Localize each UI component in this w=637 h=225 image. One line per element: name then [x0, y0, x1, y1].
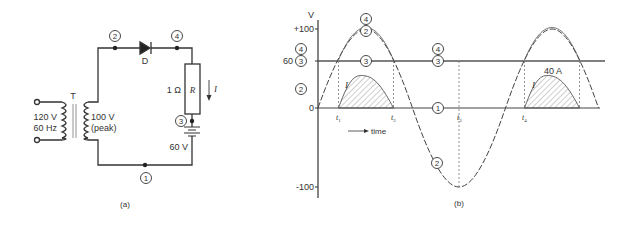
diode-symbol [140, 42, 150, 54]
time-arrow-label: time [371, 127, 387, 136]
diode-label: D [142, 56, 149, 66]
node-4-label: 4 [175, 32, 180, 41]
node-1-dot [143, 163, 147, 167]
t2-label: t2 [391, 113, 396, 123]
wire-top-right [151, 48, 192, 64]
node-2-dot [113, 46, 117, 50]
input-terminal-top [35, 100, 40, 105]
t3-label: t3 [457, 113, 462, 123]
y-tick-100: +100 [294, 24, 314, 34]
battery-label: 60 V [169, 142, 188, 152]
input-terminal-bottom [35, 138, 40, 143]
waveform-graph [315, 20, 605, 198]
figure-canvas: 2 4 3 1 T 120 V 60 Hz 100 V (peak) D 1 Ω… [0, 0, 637, 225]
marker-peak-4-label: 4 [364, 15, 369, 24]
circuit-caption: (a) [120, 200, 130, 209]
node-3-label: 3 [179, 117, 184, 126]
marker-right-4-label: 4 [436, 45, 441, 54]
y-tick-neg100: -100 [296, 182, 314, 192]
marker-peak-2-label: 2 [364, 27, 369, 36]
marker-trough-2-label: 2 [435, 159, 440, 168]
time-arrowhead [364, 129, 369, 133]
marker-mid-3-label: 3 [364, 57, 369, 66]
node-3-dot [190, 119, 194, 123]
node-4-trace-2 [525, 28, 580, 61]
transformer-label: T [70, 91, 76, 101]
marker-left-3-label: 3 [299, 57, 304, 66]
y-tick-60: 60 [283, 56, 293, 66]
resistor-value-label: 1 Ω [167, 85, 182, 95]
secondary-coil [84, 102, 88, 140]
marker-right-3-label: 3 [436, 57, 441, 66]
marker-zero-1-label: 1 [436, 104, 441, 113]
y-tick-0: 0 [309, 103, 314, 113]
t4-label: t4 [522, 113, 527, 123]
current-peak-label: 40 A [544, 66, 562, 76]
primary-voltage-label: 120 V [33, 112, 57, 122]
battery-symbol [184, 127, 200, 136]
node-1-label: 1 [144, 174, 149, 183]
transformer-core [73, 104, 76, 138]
circuit-current-label: I [213, 84, 218, 94]
marker-left-4-label: 4 [299, 45, 304, 54]
current-arrowhead [207, 95, 212, 101]
t1-label: t1 [336, 113, 341, 123]
graph-caption: (b) [454, 199, 464, 208]
secondary-peak-label: (peak) [91, 123, 117, 133]
primary-coil [62, 102, 66, 140]
resistor-symbol-label: R [189, 85, 196, 95]
node-4-dot [175, 46, 179, 50]
node-2-label: 2 [113, 32, 118, 41]
y-unit-label: V [308, 10, 314, 20]
primary-frequency-label: 60 Hz [33, 123, 57, 133]
marker-left-2-label: 2 [299, 85, 304, 94]
secondary-voltage-label: 100 V [91, 112, 115, 122]
